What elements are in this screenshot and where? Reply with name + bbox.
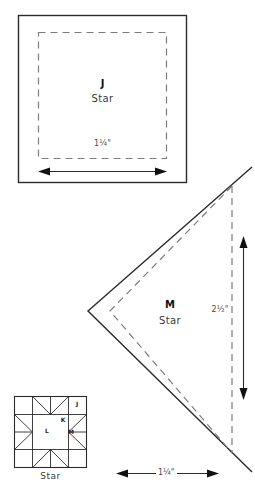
template-j-piece-letter: J — [0, 79, 205, 89]
template-m-block-name: Star — [145, 316, 195, 326]
star-block-label-j: J — [69, 401, 85, 407]
template-j-dimension-label: 1¼" — [0, 140, 205, 148]
star-block-label-l: L — [40, 428, 54, 434]
star-block-caption: Star — [14, 472, 87, 481]
template-sheet: J Star 1¼" M Star 2½" 1¼" J K L M Star — [0, 0, 255, 489]
star-block-label-k: K — [57, 417, 69, 423]
template-m-piece-letter: M — [150, 300, 190, 310]
template-j-dimension-arrow — [38, 168, 167, 176]
template-m-dimension-label: 2½" — [204, 306, 236, 314]
template-m-base-dimension-label: 1¼" — [156, 469, 177, 477]
star-block-label-m: M — [64, 429, 78, 435]
template-m-dimension-arrow — [240, 236, 248, 400]
template-j-block-name: Star — [0, 94, 205, 104]
template-drawing — [0, 0, 255, 489]
